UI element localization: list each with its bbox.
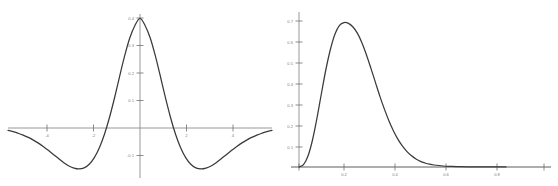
wavelet-plot-svg: -4 -2 2 4 0.1 0.2 0.3 0.4 -0.1 [0,0,279,186]
chart-panel-left: -4 -2 2 4 0.1 0.2 0.3 0.4 -0.1 [0,0,279,186]
y-tick-label: -0.1 [127,153,135,158]
y-tick-label: 0.6 [287,40,293,45]
x-tick-label: -2 [92,133,96,138]
y-tick-label: 0.2 [287,124,293,129]
y-tick-label: 0.4 [287,82,293,87]
chart-panel-right: 0.2 0.4 0.6 0.8 0.1 0.2 0.3 0.4 0.5 0.6 … [279,0,558,186]
y-tick-label: 0.3 [128,43,134,48]
y-tick-label: 0.3 [287,103,293,108]
y-tick-label: 0.1 [128,98,134,103]
y-tick-label: 0.4 [128,16,134,21]
y-tick-label: 0.1 [287,145,293,150]
y-tick-label: 0.7 [287,19,293,24]
x-tick-label: -4 [45,133,49,138]
x-tick-label: 0.2 [341,172,347,177]
x-tick-label: 2 [185,133,188,138]
x-tick-label: 0.6 [443,172,449,177]
y-tick-label: 0.5 [287,61,293,66]
figure-root: -4 -2 2 4 0.1 0.2 0.3 0.4 -0.1 [0,0,558,186]
x-tick-label: 0.4 [392,172,398,177]
x-tick-label: 0.8 [494,172,500,177]
x-tick-label: 4 [232,133,235,138]
y-tick-label: 0.2 [128,71,134,76]
density-plot-svg: 0.2 0.4 0.6 0.8 0.1 0.2 0.3 0.4 0.5 0.6 … [279,0,558,186]
data-curve-density [299,22,506,167]
